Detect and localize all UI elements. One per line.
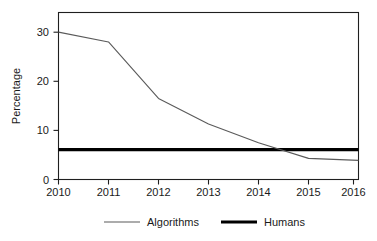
x-tick-label-2016: 2016: [341, 186, 365, 198]
x-tick-label-2012: 2012: [146, 186, 170, 198]
y-tick-label-30: 30: [37, 26, 49, 38]
y-axis-title: Percentage: [10, 68, 22, 124]
y-tick-label-20: 20: [37, 75, 49, 87]
chart-figure: 0 10 20 30 Percentage 2010 2011 2012 201…: [0, 0, 377, 241]
legend-label-algorithms: Algorithms: [147, 216, 199, 228]
y-tick-label-10: 10: [37, 124, 49, 136]
line-chart: 0 10 20 30 Percentage 2010 2011 2012 201…: [0, 0, 377, 241]
x-tick-label-2011: 2011: [97, 186, 121, 198]
x-tick-label-2014: 2014: [246, 186, 270, 198]
x-tick-label-2010: 2010: [46, 186, 70, 198]
legend-label-humans: Humans: [264, 216, 305, 228]
x-tick-label-2015: 2015: [296, 186, 320, 198]
x-tick-label-2013: 2013: [196, 186, 220, 198]
chart-background: [0, 0, 377, 241]
y-tick-label-0: 0: [43, 174, 49, 186]
